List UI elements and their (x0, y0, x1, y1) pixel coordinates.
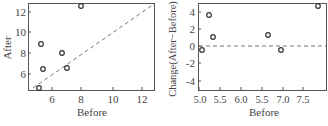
y-axis-label: Change(After−Before) (167, 1, 179, 97)
x-tick-label: 8 (78, 93, 84, 105)
plot-frame (199, 4, 327, 91)
data-points (37, 4, 84, 91)
x-tick-label: 6 (49, 93, 55, 105)
change-vs-before-svg: 5.0 5.5 6.0 5.5 7.0 7.5 4 2 0 -2 -4 Befo… (164, 0, 328, 126)
x-axis-label: Before (249, 106, 279, 118)
after-vs-before-plot: 6 8 10 12 12 10 8 6 Before After (0, 0, 164, 126)
x-tick-label: 10 (108, 93, 120, 105)
y-tick-label: 2 (190, 23, 196, 35)
y-tick-label: 8 (21, 47, 27, 59)
x-tick-label: 7.5 (296, 94, 309, 105)
y-tick-label: 4 (190, 6, 196, 18)
x-tick-label: 7.0 (276, 94, 289, 105)
y-axis-label: After (1, 36, 13, 60)
x-tick-label: 5.0 (193, 94, 206, 105)
after-vs-before-svg: 6 8 10 12 12 10 8 6 Before After (0, 0, 164, 126)
data-points (200, 4, 321, 53)
x-tick-label: 6.0 (234, 94, 247, 105)
x-axis-label: Before (77, 106, 107, 118)
identity-line (33, 4, 154, 88)
y-tick-label: 0 (190, 40, 196, 52)
x-tick-label: 12 (137, 93, 148, 105)
y-tick-label: 12 (15, 6, 26, 18)
x-tick-label: 5.5 (255, 94, 268, 105)
y-tick-label: -4 (186, 75, 196, 87)
x-tick-label: 5.5 (213, 94, 226, 105)
change-vs-before-plot: 5.0 5.5 6.0 5.5 7.0 7.5 4 2 0 -2 -4 Befo… (164, 0, 328, 126)
y-tick-label: 10 (15, 26, 27, 38)
y-tick-label: -2 (186, 57, 195, 69)
y-tick-label: 6 (21, 68, 27, 80)
